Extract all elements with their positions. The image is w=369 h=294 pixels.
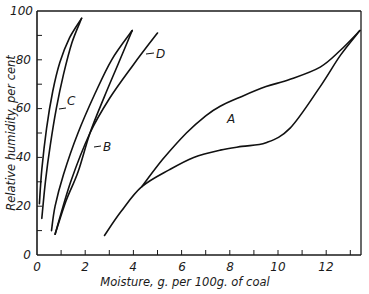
- curve-label-c: C: [67, 94, 76, 108]
- leader-c: [59, 108, 66, 109]
- y-tick-label: 100: [10, 4, 33, 18]
- y-tick-label: 0: [23, 248, 31, 262]
- x-tick-label: 12: [318, 260, 333, 274]
- y-tick-label: 20: [16, 199, 32, 213]
- curve-label-b: B: [103, 140, 111, 154]
- x-tick-label: 10: [270, 260, 286, 274]
- y-axis-title: Relative humidity, per cent: [4, 55, 18, 211]
- y-tick-label: 60: [16, 101, 32, 115]
- curve-label-a: A: [226, 112, 235, 126]
- leader-d: [146, 53, 154, 54]
- x-axis-title: Moisture, g. per 100g. of coal: [100, 275, 270, 289]
- y-tick-label: 40: [16, 150, 32, 164]
- curve-a-lower: [105, 31, 360, 236]
- x-tick-label: 4: [129, 260, 137, 274]
- x-tick-labels: 0 2 4 6 8 10 12: [33, 260, 333, 274]
- curves: [39, 18, 360, 235]
- y-tick-label: 80: [16, 53, 32, 67]
- curve-a-upper: [142, 31, 360, 187]
- moisture-chart: 0 2 4 6 8 10 12 0 20 40 60 80 100 Moistu…: [0, 0, 369, 294]
- leader-b: [94, 146, 101, 147]
- x-tick-label: 8: [226, 260, 234, 274]
- x-tick-label: 6: [178, 260, 186, 274]
- curve-d-main: [55, 33, 157, 234]
- x-tick-label: 0: [33, 260, 41, 274]
- x-tick-label: 2: [81, 260, 89, 274]
- plot-frame: [37, 11, 361, 255]
- curve-label-d: D: [156, 47, 165, 61]
